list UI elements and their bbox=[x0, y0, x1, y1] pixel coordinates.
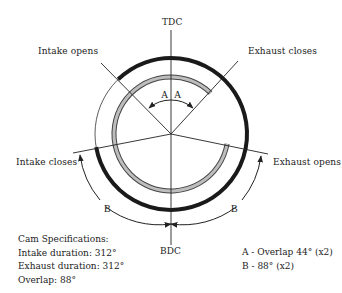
angle-a-label-right: A bbox=[174, 89, 182, 100]
spec-title: Cam Specifications: bbox=[18, 233, 124, 247]
exhaust-closes-label: Exhaust closes bbox=[248, 46, 317, 56]
overlap-arrow-a-right bbox=[171, 100, 193, 108]
b-arrow-right-upper bbox=[242, 156, 261, 200]
angle-a-label-left: A bbox=[161, 89, 169, 100]
intake-closes-line bbox=[73, 134, 171, 153]
cam-specifications: Cam Specifications: Intake duration: 312… bbox=[18, 233, 124, 287]
b-arrow-left-upper bbox=[80, 155, 100, 200]
spec-intake-duration: Intake duration: 312° bbox=[18, 247, 124, 261]
intake-opens-label: Intake opens bbox=[38, 46, 98, 56]
exhaust-opens-line bbox=[171, 134, 268, 154]
cam-timing-diagram: A A B B TDC BDC Intake opens Exhaust clo… bbox=[0, 0, 342, 293]
legend-a: A - Overlap 44° (x2) bbox=[242, 246, 333, 260]
bdc-label: BDC bbox=[160, 246, 181, 256]
spec-exhaust-duration: Exhaust duration: 312° bbox=[18, 260, 124, 274]
angle-legend: A - Overlap 44° (x2) B - 88° (x2) bbox=[242, 246, 333, 273]
exhaust-opens-label: Exhaust opens bbox=[273, 157, 342, 167]
overlap-arrow-a-left bbox=[149, 100, 171, 108]
spec-overlap: Overlap: 88° bbox=[18, 274, 124, 288]
tdc-label: TDC bbox=[162, 17, 182, 27]
legend-b: B - 88° (x2) bbox=[242, 260, 333, 274]
angle-b-label-left: B bbox=[104, 203, 111, 214]
intake-closes-label: Intake closes bbox=[16, 157, 77, 167]
angle-b-label-right: B bbox=[231, 203, 238, 214]
